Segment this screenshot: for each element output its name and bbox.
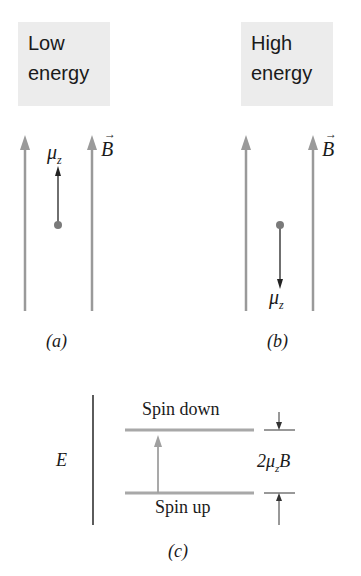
energy-axis-label: E [56,450,67,471]
vector-arrow-icon: → [325,130,337,138]
panel-a-field-label: → B [101,130,116,161]
transition-arrow [154,435,162,493]
diagram-graphics [0,0,361,576]
vector-arrow-icon: → [104,130,116,138]
energy-levels [125,430,254,493]
panel-b-field-label: → B [322,130,337,161]
spin-down-label: Spin down [142,399,220,420]
panel-a-caption: (a) [46,331,67,352]
panel-a-moment-label: μz [47,141,62,168]
panel-b-moment-label: μz [269,286,284,313]
energy-gap-label: 2μzB [257,451,290,474]
panel-a-moment-arrow [54,166,62,229]
spin-up-label: Spin up [155,497,211,518]
panel-c-caption: (c) [168,541,188,562]
panel-b-moment-arrow [276,221,284,289]
panel-b-caption: (b) [267,331,288,352]
